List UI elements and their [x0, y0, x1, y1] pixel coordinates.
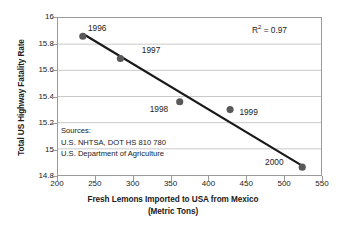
x-tick-mark [322, 176, 323, 181]
data-point-label: 1996 [88, 24, 106, 33]
y-tick-label: 15.8 [14, 40, 54, 48]
sources-annotation: Sources: U.S. NHTSA, DOT HS 810 780 U.S.… [61, 125, 166, 160]
x-tick-label: 250 [75, 180, 115, 188]
x-tick-label: 450 [226, 180, 266, 188]
x-axis-title-line-2: (Metric Tons) [0, 206, 346, 218]
chart-container: Total US Highway Fatality Rate 1615.815.… [0, 0, 346, 227]
x-tick-mark [284, 176, 285, 181]
x-tick-label: 550 [302, 180, 342, 188]
r-squared-value: = 0.97 [261, 25, 287, 35]
sources-line-1: U.S. NHTSA, DOT HS 810 780 [61, 137, 166, 149]
y-tick-label: 15.6 [14, 66, 54, 74]
data-point-label: 1997 [142, 46, 160, 55]
y-tick-label: 15.2 [14, 119, 54, 127]
data-point-marker [79, 33, 86, 40]
x-axis-title: Fresh Lemons Imported to USA from Mexico… [0, 194, 346, 218]
y-tick-label: 14.8 [14, 172, 54, 180]
x-tick-label: 300 [113, 180, 153, 188]
x-tick-mark [246, 176, 247, 181]
y-tick-label: 16 [14, 13, 54, 21]
x-tick-mark [95, 176, 96, 181]
data-point-marker [299, 164, 306, 171]
sources-heading: Sources: [61, 125, 166, 137]
y-tick-label: 15 [14, 146, 54, 154]
x-tick-mark [57, 176, 58, 181]
x-tick-label: 200 [37, 180, 77, 188]
y-tick-label: 15.4 [14, 93, 54, 101]
data-point-label: 1999 [239, 108, 257, 117]
sources-line-2: U.S. Department of Agriculture [61, 148, 166, 160]
x-tick-mark [208, 176, 209, 181]
x-tick-label: 500 [264, 180, 304, 188]
x-tick-label: 400 [188, 180, 228, 188]
x-tick-label: 350 [151, 180, 191, 188]
x-tick-mark [171, 176, 172, 181]
x-tick-mark [133, 176, 134, 181]
data-point-label: 2000 [265, 158, 283, 167]
data-point-marker [227, 106, 234, 113]
x-axis-title-line-1: Fresh Lemons Imported to USA from Mexico [87, 195, 258, 204]
r-squared-annotation: R2 = 0.97 [252, 23, 287, 35]
data-point-label: 1998 [150, 105, 168, 114]
data-point-marker [176, 98, 183, 105]
data-point-marker [117, 55, 124, 62]
